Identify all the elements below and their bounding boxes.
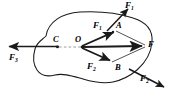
force-parallelogram-diagram: F1 F2 F1 F2 F3 F O A B C	[0, 0, 174, 98]
point-a-dot	[112, 31, 114, 33]
label-resultant-force: F	[148, 40, 154, 49]
force-f2-vector	[82, 48, 110, 61]
parallelogram-side-bf	[112, 47, 145, 62]
point-o-dot	[81, 46, 84, 49]
resultant-force-vector	[82, 46, 142, 47]
label-point-c: C	[53, 35, 59, 44]
label-force-f2-outer: F2	[140, 74, 149, 83]
label-point-a: A	[116, 21, 122, 30]
label-point-o: O	[75, 35, 81, 44]
label-force-f1-inner: F1	[93, 21, 102, 30]
label-point-b: B	[115, 63, 121, 72]
point-c-dot	[56, 45, 59, 48]
parallelogram-side-af	[116, 31, 145, 45]
label-force-f2-inner: F2	[87, 62, 96, 71]
force-f1-vector	[82, 32, 114, 46]
label-force-f1-outer: F1	[125, 1, 134, 10]
label-force-f3: F3	[9, 53, 18, 62]
